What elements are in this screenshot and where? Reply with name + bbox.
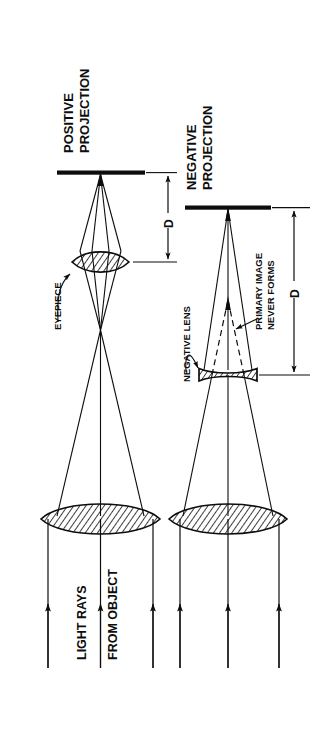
- positive-objective-to-focus-rays: [57, 330, 144, 516]
- positive-dimension-D: D: [133, 173, 177, 262]
- negative-dimension-label: D: [288, 289, 302, 298]
- positive-heading-line1: POSITIVE: [61, 93, 76, 153]
- positive-dimension-label: D: [162, 219, 176, 228]
- negative-lens-callout: NEGATIVE LENS: [181, 306, 198, 382]
- negative-heading-line1: NEGATIVE: [184, 124, 199, 190]
- negative-heading-line2: PROJECTION: [200, 105, 215, 190]
- negative-objective-rays: [183, 375, 273, 516]
- optical-diagram-figure: POSITIVE PROJECTION: [0, 0, 319, 734]
- incoming-ray-labels: LIGHT RAYS FROM OBJECT: [75, 569, 120, 660]
- positive-incoming-rays: [48, 519, 153, 668]
- negative-incoming-rays: [180, 519, 279, 668]
- negative-lens-to-screen-rays: [204, 210, 252, 371]
- positive-screen-bar: [57, 171, 145, 175]
- diagram-canvas: POSITIVE PROJECTION: [0, 0, 319, 734]
- eyepiece-callout: EYEPIECE: [52, 274, 70, 330]
- light-rays-label: LIGHT RAYS: [75, 585, 89, 660]
- primary-image-callout: PRIMARY IMAGE NEVER FORMS: [236, 253, 276, 330]
- negative-lens-label: NEGATIVE LENS: [181, 306, 192, 382]
- primary-image-label-line1: PRIMARY IMAGE: [253, 253, 264, 330]
- negative-projection-heading: NEGATIVE PROJECTION: [184, 105, 215, 190]
- from-object-label: FROM OBJECT: [106, 569, 120, 660]
- panel-negative-projection: NEGATIVE PROJECTION: [169, 105, 310, 668]
- primary-image-label-line2: NEVER FORMS: [265, 260, 276, 330]
- virtual-image-arrow: [225, 296, 231, 310]
- positive-projection-heading: POSITIVE PROJECTION: [61, 68, 92, 153]
- positive-heading-line2: PROJECTION: [77, 68, 92, 153]
